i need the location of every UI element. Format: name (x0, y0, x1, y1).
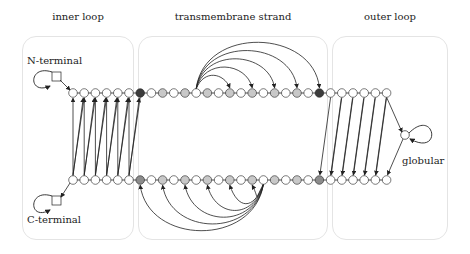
residue-node (349, 176, 358, 185)
residue-node (315, 89, 324, 98)
residue-node (360, 89, 369, 98)
residue-node (304, 89, 313, 98)
residue-node (91, 89, 100, 98)
residue-node (293, 89, 302, 98)
residue-node (192, 176, 201, 185)
residue-node (226, 89, 235, 98)
residue-node (282, 176, 291, 185)
residue-node (69, 176, 78, 185)
n-terminal-label: N-terminal (27, 55, 82, 66)
residue-node (181, 89, 190, 98)
residue-node (125, 176, 134, 185)
residue-node (304, 176, 313, 185)
residue-node (80, 89, 89, 98)
residue-node (259, 89, 268, 98)
residue-node (270, 176, 279, 185)
residue-node (248, 176, 257, 185)
residue-node (158, 176, 167, 185)
residue-node (382, 176, 391, 185)
residue-node (259, 176, 268, 185)
residue-node (147, 89, 156, 98)
residue-node (349, 89, 358, 98)
residue-node (326, 176, 335, 185)
globular-label: globular (402, 155, 444, 166)
residue-node (360, 176, 369, 185)
residue-node (371, 89, 380, 98)
residue-node (293, 176, 302, 185)
residue-node (338, 89, 347, 98)
residue-node (125, 89, 134, 98)
residue-node (136, 89, 145, 98)
residue-node (80, 176, 89, 185)
residue-node (338, 176, 347, 185)
residue-node (382, 89, 391, 98)
residue-node (203, 176, 212, 185)
residue-node (237, 89, 246, 98)
residue-node (102, 176, 111, 185)
residue-node (270, 89, 279, 98)
residue-node (326, 89, 335, 98)
residue-node (248, 89, 257, 98)
residue-node (136, 176, 145, 185)
residue-node (237, 176, 246, 185)
residue-node (147, 176, 156, 185)
residue-node (214, 89, 223, 98)
residue-node (226, 176, 235, 185)
c-terminal-label: C-terminal (27, 214, 81, 225)
residue-node (114, 176, 123, 185)
residue-node (181, 176, 190, 185)
residue-node (102, 89, 111, 98)
residue-node (282, 89, 291, 98)
residue-node (158, 89, 167, 98)
residue-node (214, 176, 223, 185)
residue-node (69, 89, 78, 98)
residue-node (315, 176, 324, 185)
residue-node (114, 89, 123, 98)
residue-node (203, 89, 212, 98)
residue-node (192, 89, 201, 98)
residue-node (91, 176, 100, 185)
residue-node (371, 176, 380, 185)
residue-node (170, 176, 179, 185)
residue-node (170, 89, 179, 98)
